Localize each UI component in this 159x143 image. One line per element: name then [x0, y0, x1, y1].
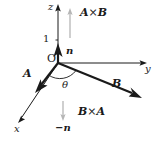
negative-n-vector-label: −n: [55, 123, 71, 133]
origin-label: O: [47, 53, 56, 64]
theta-angle-label: θ: [62, 80, 68, 90]
a-cross-b-direction-arrow: [67, 8, 72, 38]
vector-diagram-figure: z y x O 1 n A B −n θ A×B B×A: [0, 0, 159, 143]
z-axis-label: z: [48, 2, 53, 12]
b-cross-a-label: B×A: [78, 106, 105, 117]
a-cross-b-lhs: A: [80, 6, 89, 19]
z-axis-tick-label-1: 1: [43, 34, 49, 44]
b-cross-a-operator: ×: [87, 105, 96, 118]
n-vector-label: n: [66, 46, 73, 56]
vector-b-label: B: [112, 78, 121, 89]
x-axis-label: x: [14, 124, 20, 134]
b-cross-a-lhs: B: [78, 105, 87, 118]
b-cross-a-direction-arrow: [60, 101, 65, 121]
b-cross-a-rhs: A: [97, 105, 106, 118]
a-cross-b-operator: ×: [89, 6, 98, 19]
a-cross-b-label: A×B: [80, 7, 107, 18]
vector-a-label: A: [23, 68, 32, 79]
y-axis-label: y: [145, 64, 151, 74]
a-cross-b-rhs: B: [98, 6, 107, 19]
y-axis: [58, 60, 147, 66]
vector-b-arrow: [58, 63, 142, 98]
